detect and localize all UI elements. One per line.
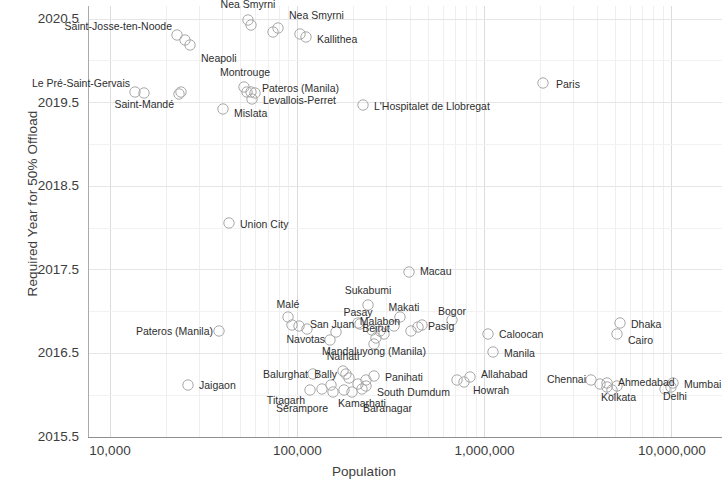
data-point-marker bbox=[538, 78, 548, 88]
data-point-marker bbox=[358, 100, 368, 110]
point-label: Pateros (Manila) bbox=[262, 83, 339, 94]
y-tick-label: 2018.5 bbox=[5, 179, 79, 193]
y-axis-title: Required Year for 50% Offload bbox=[25, 74, 40, 334]
point-label: Makati bbox=[389, 302, 420, 313]
point-label: Delhi bbox=[663, 391, 687, 402]
point-label: Paris bbox=[556, 79, 580, 90]
data-point-marker bbox=[283, 312, 293, 322]
data-point-marker bbox=[305, 385, 315, 395]
x-axis-title: Population bbox=[0, 464, 728, 479]
point-label: South Dumdum bbox=[377, 387, 450, 398]
x-tick-label: 1,000,000 bbox=[455, 444, 515, 458]
point-label: Union City bbox=[240, 219, 288, 230]
point-label: Navotas bbox=[286, 334, 325, 345]
point-label: San Juan bbox=[310, 319, 354, 330]
point-label: Montrouge bbox=[220, 67, 270, 78]
point-label: Pateros (Manila) bbox=[136, 326, 213, 337]
data-point-marker bbox=[338, 366, 348, 376]
data-point-marker bbox=[361, 375, 371, 385]
data-markers bbox=[130, 15, 678, 397]
point-label: Jaigaon bbox=[199, 380, 236, 391]
point-label: Ahmedabad bbox=[618, 377, 675, 388]
point-label: Neapoli bbox=[201, 53, 237, 64]
data-point-marker bbox=[612, 329, 622, 339]
data-point-marker bbox=[183, 380, 193, 390]
point-label: Levallois-Perret bbox=[263, 95, 336, 106]
point-label: Manila bbox=[504, 348, 535, 359]
scatter-chart: 2015.52016.52017.52018.52019.52020.5 10,… bbox=[0, 0, 728, 485]
data-point-marker bbox=[404, 267, 414, 277]
y-tick-label: 2017.5 bbox=[5, 263, 79, 277]
point-label: Beirut bbox=[362, 323, 389, 334]
point-label: Bogor bbox=[438, 306, 466, 317]
point-label: Le Pré-Saint-Gervais bbox=[32, 78, 130, 89]
point-label: Saint-Mandé bbox=[114, 99, 174, 110]
data-point-marker bbox=[295, 29, 305, 39]
point-label: Bally bbox=[314, 369, 337, 380]
point-label: Howrah bbox=[473, 385, 509, 396]
point-label: Kamarhati bbox=[338, 398, 386, 409]
point-label: Caloocan bbox=[499, 329, 543, 340]
data-point-marker bbox=[595, 379, 605, 389]
point-label: Balurghat bbox=[263, 369, 308, 380]
point-label: Pasig bbox=[428, 321, 454, 332]
y-tick-label: 2019.5 bbox=[5, 96, 79, 110]
point-label: L'Hospitalet de Llobregat bbox=[374, 101, 490, 112]
point-label: Kolkata bbox=[601, 392, 636, 403]
point-label: Nea Smyrni bbox=[289, 10, 344, 21]
point-label: Chennai bbox=[547, 374, 586, 385]
x-tick-label: 10,000,000 bbox=[638, 444, 706, 458]
point-label: Panihati bbox=[385, 372, 423, 383]
y-tick-label: 2015.5 bbox=[5, 430, 79, 444]
data-point-marker bbox=[172, 30, 182, 40]
point-label: Dhaka bbox=[631, 319, 661, 330]
data-point-marker bbox=[369, 371, 379, 381]
point-label: Malé bbox=[277, 299, 300, 310]
point-label: Cairo bbox=[628, 335, 653, 346]
point-label: Serampore bbox=[276, 403, 328, 414]
point-label: Naihati bbox=[327, 351, 360, 362]
point-label: Mislata bbox=[234, 108, 267, 119]
data-point-marker bbox=[452, 375, 462, 385]
point-label: Kallithea bbox=[317, 34, 357, 45]
y-tick-label: 2016.5 bbox=[5, 346, 79, 360]
point-label: Macau bbox=[420, 266, 452, 277]
data-point-marker bbox=[488, 347, 498, 357]
data-point-marker bbox=[224, 218, 234, 228]
data-point-marker bbox=[174, 89, 184, 99]
point-label: Sukabumi bbox=[345, 285, 392, 296]
data-point-marker bbox=[301, 32, 311, 42]
point-label: Nea Smyrni bbox=[221, 0, 276, 10]
x-tick-label: 10,000 bbox=[89, 444, 130, 458]
data-point-marker bbox=[317, 384, 327, 394]
x-tick-label: 100,000 bbox=[273, 444, 322, 458]
point-label: Saint-Josse-ten-Noode bbox=[65, 21, 172, 32]
point-label: Allahabad bbox=[481, 369, 528, 380]
data-point-marker bbox=[615, 318, 625, 328]
data-point-marker bbox=[176, 87, 186, 97]
point-label: Mumbai bbox=[684, 379, 721, 390]
